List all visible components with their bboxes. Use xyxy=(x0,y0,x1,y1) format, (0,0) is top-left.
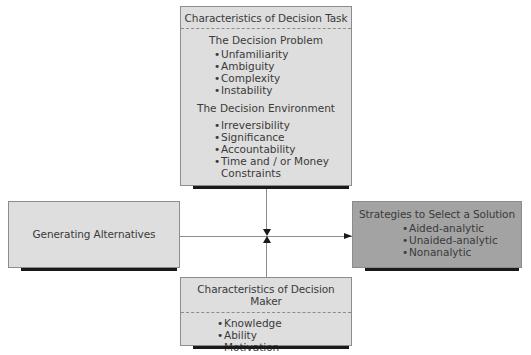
list-item: •Nonanalytic xyxy=(402,246,521,258)
decision-task-box: Characteristics of Decision Task The Dec… xyxy=(180,6,352,186)
strategies-title: Strategies to Select a Solution xyxy=(353,202,521,220)
list-item: •Time and / or Money xyxy=(214,155,351,167)
connector-vertical-bottom xyxy=(266,240,267,277)
list-item: •Complexity xyxy=(214,72,351,84)
list-item: •Ambiguity xyxy=(214,60,351,72)
list-item: •Instability xyxy=(214,84,351,96)
arrow-up-icon xyxy=(263,236,271,243)
decision-problem-heading: The Decision Problem xyxy=(181,34,351,46)
list-item-continuation: Constraints xyxy=(214,167,351,179)
list-item: •Knowledge xyxy=(217,317,351,329)
decision-maker-title: Characteristics of Decision Maker xyxy=(181,278,351,313)
decision-maker-box: Characteristics of Decision Maker •Knowl… xyxy=(180,277,352,346)
decision-task-title: Characteristics of Decision Task xyxy=(181,7,351,29)
generating-alternatives-title: Generating Alternatives xyxy=(9,202,179,267)
list-item: •Unaided-analytic xyxy=(402,234,521,246)
decision-environment-heading: The Decision Environment xyxy=(181,102,351,114)
list-item: •Motivation xyxy=(217,341,351,353)
decision-problem-list: •Unfamiliarity •Ambiguity •Complexity •I… xyxy=(214,48,351,96)
strategies-list: •Aided-analytic •Unaided-analytic •Nonan… xyxy=(402,222,521,258)
list-item: •Unfamiliarity xyxy=(214,48,351,60)
generating-alternatives-box: Generating Alternatives xyxy=(8,201,180,268)
arrow-down-icon xyxy=(263,229,271,236)
strategies-box: Strategies to Select a Solution •Aided-a… xyxy=(352,201,522,268)
arrow-right-icon xyxy=(344,233,352,239)
connector-vertical-top xyxy=(266,186,267,232)
list-item: •Aided-analytic xyxy=(402,222,521,234)
decision-environment-list: •Irreversibility •Significance •Accounta… xyxy=(214,119,351,179)
list-item: •Ability xyxy=(217,329,351,341)
list-item: •Accountability xyxy=(214,143,351,155)
list-item: •Significance xyxy=(214,131,351,143)
list-item: •Irreversibility xyxy=(214,119,351,131)
decision-maker-list: •Knowledge •Ability •Motivation xyxy=(217,317,351,353)
